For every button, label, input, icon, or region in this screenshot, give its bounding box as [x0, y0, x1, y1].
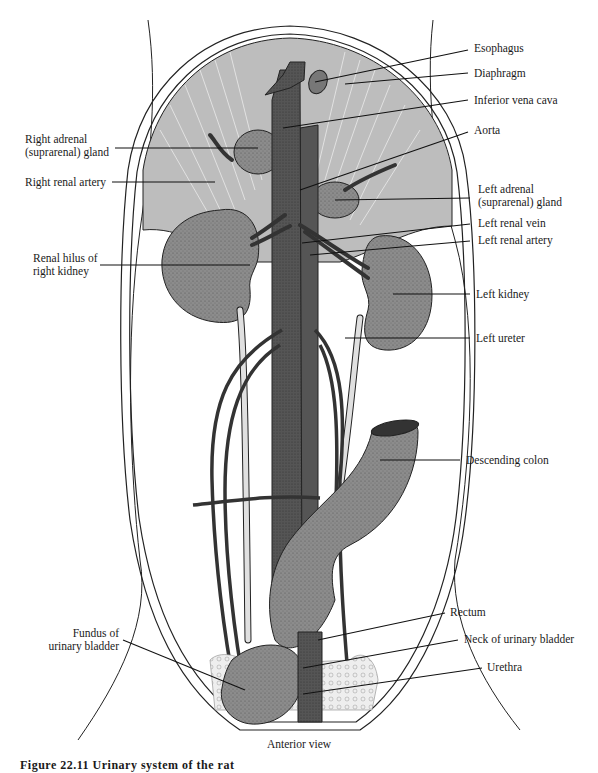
label-renal-hilus-line1: Renal hilus of [33, 252, 98, 265]
label-rectum: Rectum [450, 606, 486, 619]
label-right-adrenal-gland: Right adrenal (suprarenal) gland [25, 133, 109, 159]
label-urethra: Urethra [487, 661, 522, 674]
label-left-renal-artery: Left renal artery [478, 234, 553, 247]
label-renal-hilus-line2: right kidney [33, 265, 98, 278]
label-neck-of-urinary-bladder: Neck of urinary bladder [464, 633, 574, 646]
left-kidney [362, 236, 432, 351]
label-left-adrenal-line2: (suprarenal) gland [478, 196, 562, 209]
label-left-adrenal-gland: Left adrenal (suprarenal) gland [478, 183, 562, 209]
label-fundus-urinary-bladder: Fundus of urinary bladder [45, 627, 119, 653]
label-aorta: Aorta [474, 124, 500, 137]
label-fundus-line2: urinary bladder [45, 640, 119, 653]
label-right-adrenal-line2: (suprarenal) gland [25, 146, 109, 159]
label-renal-hilus-right-kidney: Renal hilus of right kidney [33, 252, 98, 278]
rectum [298, 632, 322, 722]
label-right-renal-artery: Right renal artery [25, 176, 106, 189]
label-descending-colon: Descending colon [466, 454, 549, 467]
label-right-adrenal-line1: Right adrenal [25, 133, 109, 146]
label-left-renal-vein: Left renal vein [478, 217, 546, 230]
view-label: Anterior view [0, 738, 598, 750]
label-left-kidney: Left kidney [476, 288, 529, 301]
label-diaphragm: Diaphragm [474, 67, 526, 80]
label-left-ureter: Left ureter [476, 332, 525, 345]
label-esophagus: Esophagus [474, 42, 524, 55]
label-inferior-vena-cava: Inferior vena cava [474, 94, 558, 107]
label-fundus-line1: Fundus of [45, 627, 119, 640]
label-left-adrenal-line1: Left adrenal [478, 183, 562, 196]
figure-caption: Figure 22.11 Urinary system of the rat [20, 758, 234, 773]
